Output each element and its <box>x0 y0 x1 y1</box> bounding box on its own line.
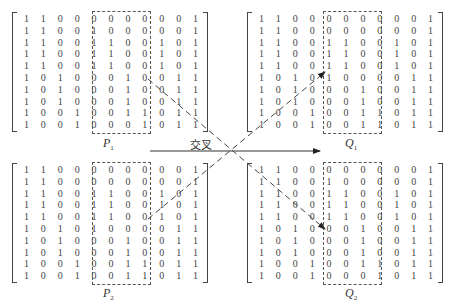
dashed-arrow-p2-to-q1 <box>148 72 325 219</box>
crossover-label: 交叉 <box>190 136 212 152</box>
dashed-arrow-p1-to-q2 <box>148 79 325 229</box>
arrows-layer <box>0 0 467 307</box>
